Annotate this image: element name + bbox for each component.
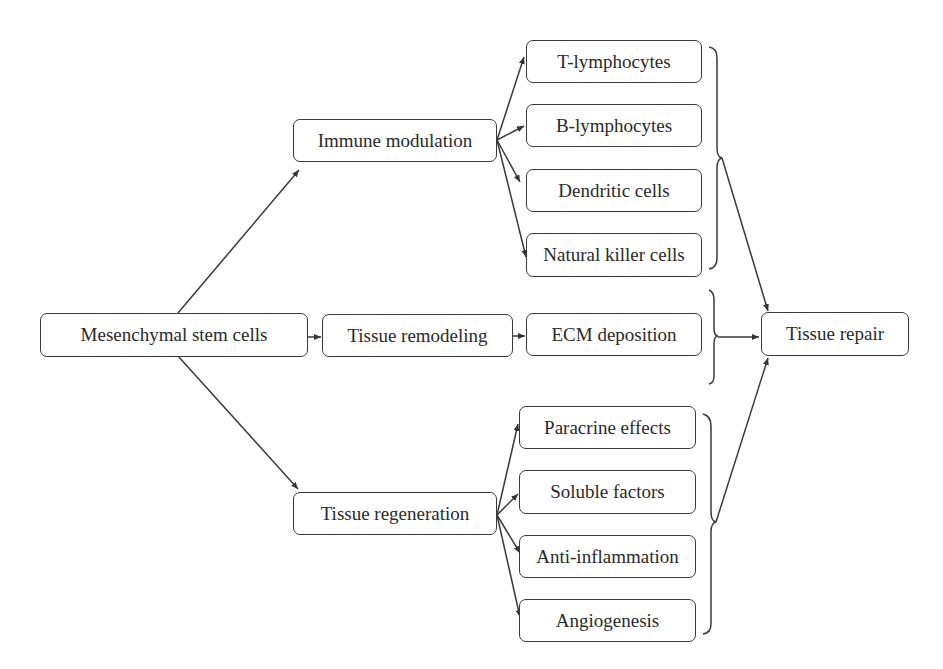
arrow-regen-to-para [497,424,518,515]
node-label: Anti-inflammation [536,546,678,568]
node-angiogenesis: Angiogenesis [519,599,696,642]
node-tissue-remodeling: Tissue remodeling [322,314,513,357]
node-label: Immune modulation [318,130,473,152]
node-soluble-factors: Soluble factors [519,470,696,514]
node-tissue-regeneration: Tissue regeneration [293,492,497,535]
node-label: Angiogenesis [556,610,659,632]
node-label: Tissue repair [786,323,884,345]
arrow-msc-to-regen [178,356,298,489]
node-label: Tissue regeneration [321,503,470,525]
node-label: Paracrine effects [544,417,671,439]
node-mesenchymal-stem-cells: Mesenchymal stem cells [40,313,308,357]
node-ecm-deposition: ECM deposition [526,313,702,356]
node-label: ECM deposition [551,324,676,346]
node-label: Dendritic cells [558,180,669,202]
node-tissue-repair: Tissue repair [761,312,909,356]
node-dendritic-cells: Dendritic cells [526,169,702,212]
node-label: Natural killer cells [543,244,684,266]
node-anti-inflammation: Anti-inflammation [519,535,696,578]
arrow-msc-to-immune [178,170,299,313]
node-b-lymphocytes: B-lymphocytes [526,104,702,147]
arrow-immune-group-to-repair [722,158,768,311]
brace-regen-group [703,414,716,634]
node-natural-killer-cells: Natural killer cells [526,233,702,277]
node-label: Mesenchymal stem cells [81,324,268,346]
arrow-regen-to-anti [497,515,520,553]
node-label: Tissue remodeling [347,325,487,347]
node-paracrine-effects: Paracrine effects [519,406,696,449]
arrow-regen-to-angio [497,515,520,617]
brace-immune-group [709,47,722,269]
node-label: Soluble factors [550,481,665,503]
brace-ecm-group [709,290,718,384]
node-immune-modulation: Immune modulation [293,119,497,162]
node-label: B-lymphocytes [556,115,672,137]
node-t-lymphocytes: T-lymphocytes [526,40,702,83]
node-label: T-lymphocytes [557,51,670,73]
arrow-regen-group-to-repair [716,358,768,522]
arrow-immune-to-nk [497,140,526,257]
arrow-immune-to-dc [497,140,520,182]
